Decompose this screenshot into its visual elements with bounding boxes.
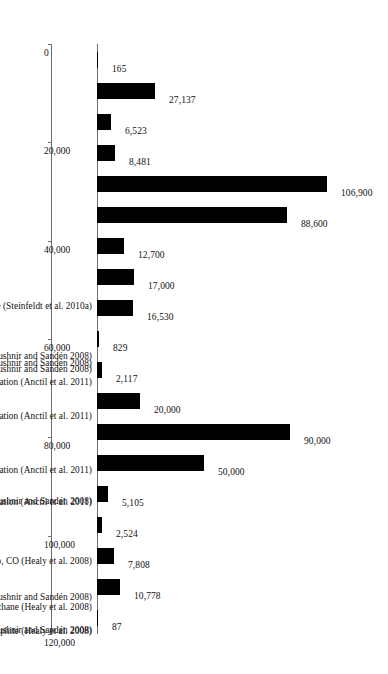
bar-value-label: 88,600: [301, 219, 328, 229]
bar-value-label: 87: [112, 622, 122, 632]
bar-value-label: 6,523: [125, 126, 147, 136]
bar[interactable]: [97, 486, 108, 502]
bar[interactable]: [97, 269, 134, 285]
bar-chart-figure: 16527,1376,5238,481106,90088,60012,70017…: [0, 0, 388, 674]
bar[interactable]: [97, 424, 291, 440]
bar-value-label: 90,000: [305, 436, 332, 446]
bar-value-label: 7,808: [128, 560, 150, 570]
axis-tick: [48, 339, 52, 340]
bar[interactable]: [97, 114, 111, 130]
axis-tick-label: 0: [44, 48, 49, 58]
bar-value-label: 165: [112, 64, 127, 74]
category-label: SWCNT, CVD, methane (Healy et al. 2008): [0, 602, 92, 612]
bar-value-label: 829: [113, 343, 128, 353]
bar[interactable]: [97, 579, 120, 595]
bar[interactable]: [97, 610, 98, 626]
bar[interactable]: [97, 300, 133, 316]
bar[interactable]: [97, 331, 99, 347]
bar[interactable]: [97, 52, 98, 68]
bar-value-label: 20,000: [154, 405, 181, 415]
bar-value-label: 106,900: [341, 188, 373, 198]
bar-value-label: 27,137: [169, 95, 196, 105]
bar[interactable]: [97, 548, 114, 564]
bars-container: 16527,1376,5238,481106,90088,60012,70017…: [97, 44, 388, 634]
bar[interactable]: [97, 83, 155, 99]
bar-value-label: 17,000: [148, 281, 175, 291]
category-label: C60, Pyrolysis, tetralin and separation …: [0, 465, 92, 475]
bar-value-label: 2,117: [116, 374, 138, 384]
category-label: C60, plasma Arc and separation (Anctil e…: [0, 410, 92, 420]
axis-tick: [48, 536, 52, 537]
plot-area: 16527,1376,5238,481106,90088,60012,70017…: [0, 0, 388, 674]
bar[interactable]: [97, 238, 124, 254]
axis-tick: [48, 142, 52, 143]
bar-value-label: 12,700: [138, 250, 165, 260]
category-label: C60, plasma RF and separation (Anctil et…: [0, 377, 92, 387]
bar-value-label: 50,000: [219, 467, 246, 477]
bar[interactable]: [97, 393, 140, 409]
axis-tick-label: 20,000: [44, 146, 70, 156]
category-label: SWCNT, HiPco, CO (Kushnir and Sandén 200…: [0, 496, 92, 506]
axis-tick-label: 100,000: [44, 540, 75, 550]
axis-tick: [48, 241, 52, 242]
bar-value-label: 10,778: [134, 591, 161, 601]
category-label: MWCNT, floating cat. CVD, benzene (Kushn…: [0, 592, 92, 602]
bar[interactable]: [97, 517, 102, 533]
bar[interactable]: [97, 362, 102, 378]
bar[interactable]: [97, 455, 205, 471]
bar-value-label: 5,105: [122, 498, 144, 508]
axis-tick-label: 80,000: [44, 441, 70, 451]
bar-value-label: 16,530: [147, 312, 174, 322]
axis-tick: [48, 437, 52, 438]
category-label: C60, C70 pyrolysis, toluene (Kushnir and…: [0, 364, 92, 374]
axis-tick-label: 40,000: [44, 245, 70, 255]
axis-tick-label: 120,000: [44, 638, 75, 648]
bar[interactable]: [97, 145, 115, 161]
axis-tick: [48, 44, 52, 45]
bar-value-label: 2,524: [116, 529, 138, 539]
category-label: SWCNT, Arc, graphite (Healy et al. 2008): [0, 626, 92, 636]
category-label: SWCNT, HiPco, CO (Healy et al. 2008): [0, 556, 92, 566]
category-label: MWCNT, fluidbed cat. CVD, ethylene (Stei…: [0, 301, 92, 311]
chart-stage: 16527,1376,5238,481106,90088,60012,70017…: [0, 0, 388, 674]
bar[interactable]: [97, 207, 287, 223]
bar[interactable]: [97, 176, 327, 192]
bar-value-label: 8,481: [129, 157, 151, 167]
